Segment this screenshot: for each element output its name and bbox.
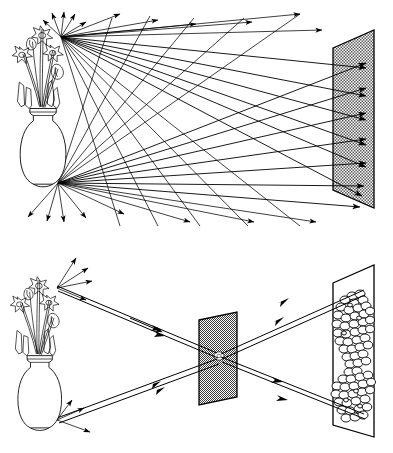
bottom-panel (10, 258, 375, 437)
pinhole-barrier (199, 312, 237, 405)
top-panel (12, 12, 374, 226)
pinhole-aperture (217, 354, 221, 357)
figure-root (0, 0, 393, 453)
bottom-panel-object-vase-of-flowers (10, 277, 61, 431)
pinhole-camera-diagram (0, 0, 393, 453)
top-panel-object-vase-of-flowers (12, 26, 66, 187)
top-panel-lower-source-rays (28, 14, 366, 222)
top-panel-upper-source-rays (43, 12, 366, 226)
